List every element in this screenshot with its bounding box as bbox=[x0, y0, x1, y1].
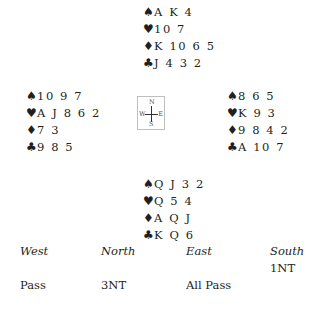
north-diamonds: ♦K 10 6 5 bbox=[143, 38, 216, 55]
east-hand: ♠8 6 5 ♥K 9 3 ♦9 8 4 2 ♣A 10 7 bbox=[227, 88, 289, 156]
club-icon: ♣ bbox=[143, 227, 154, 244]
bidding-row: 1NT bbox=[0, 261, 317, 278]
spade-icon: ♠ bbox=[143, 4, 154, 21]
spade-icon: ♠ bbox=[26, 88, 37, 105]
diamond-icon: ♦ bbox=[143, 38, 154, 55]
west-hand: ♠10 9 7 ♥A J 8 6 2 ♦7 3 ♣9 8 5 bbox=[26, 88, 101, 156]
compass-north-label: N bbox=[149, 98, 155, 106]
header-north: North bbox=[101, 244, 136, 258]
west-spades: ♠10 9 7 bbox=[26, 88, 101, 105]
bidding-header-row: West North East South bbox=[0, 244, 317, 261]
east-spades: ♠8 6 5 bbox=[227, 88, 289, 105]
north-clubs: ♣J 4 3 2 bbox=[143, 55, 216, 72]
south-diamonds: ♦A Q J bbox=[143, 210, 205, 227]
south-clubs: ♣K Q 6 bbox=[143, 227, 205, 244]
bid-cell: 3NT bbox=[101, 278, 126, 292]
heart-icon: ♥ bbox=[227, 105, 238, 122]
north-hand: ♠A K 4 ♥10 7 ♦K 10 6 5 ♣J 4 3 2 bbox=[143, 4, 216, 72]
bidding-row: Pass 3NT All Pass bbox=[0, 278, 317, 295]
club-icon: ♣ bbox=[26, 139, 37, 156]
heart-icon: ♥ bbox=[143, 193, 154, 210]
bid-cell: 1NT bbox=[270, 261, 295, 275]
club-icon: ♣ bbox=[143, 55, 154, 72]
compass-cross-icon bbox=[151, 106, 152, 122]
header-south: South bbox=[270, 244, 304, 258]
south-hand: ♠Q J 3 2 ♥Q 5 4 ♦A Q J ♣K Q 6 bbox=[143, 176, 205, 244]
south-spades: ♠Q J 3 2 bbox=[143, 176, 205, 193]
header-west: West bbox=[20, 244, 48, 258]
bidding-table: West North East South 1NT Pass 3NT All P… bbox=[0, 244, 317, 295]
compass-diagram: N W E S bbox=[137, 96, 165, 130]
east-diamonds: ♦9 8 4 2 bbox=[227, 122, 289, 139]
west-clubs: ♣9 8 5 bbox=[26, 139, 101, 156]
bid-cell: All Pass bbox=[186, 278, 231, 292]
north-spades: ♠A K 4 bbox=[143, 4, 216, 21]
east-clubs: ♣A 10 7 bbox=[227, 139, 289, 156]
header-east: East bbox=[186, 244, 212, 258]
heart-icon: ♥ bbox=[26, 105, 37, 122]
club-icon: ♣ bbox=[227, 139, 238, 156]
diamond-icon: ♦ bbox=[227, 122, 238, 139]
north-hearts: ♥10 7 bbox=[143, 21, 216, 38]
diamond-icon: ♦ bbox=[143, 210, 154, 227]
bid-cell: Pass bbox=[20, 278, 46, 292]
heart-icon: ♥ bbox=[143, 21, 154, 38]
west-diamonds: ♦7 3 bbox=[26, 122, 101, 139]
spade-icon: ♠ bbox=[227, 88, 238, 105]
spade-icon: ♠ bbox=[143, 176, 154, 193]
south-hearts: ♥Q 5 4 bbox=[143, 193, 205, 210]
east-hearts: ♥K 9 3 bbox=[227, 105, 289, 122]
diamond-icon: ♦ bbox=[26, 122, 37, 139]
west-hearts: ♥A J 8 6 2 bbox=[26, 105, 101, 122]
compass-east-label: E bbox=[158, 110, 163, 118]
